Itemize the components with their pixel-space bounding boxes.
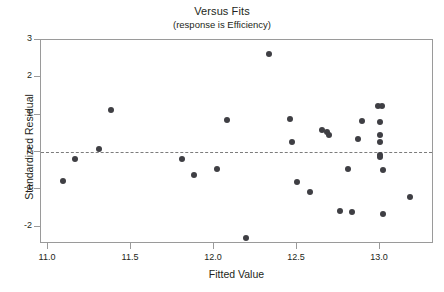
data-point	[377, 139, 383, 145]
y-tick-label: -2	[8, 221, 32, 230]
data-point	[243, 235, 249, 241]
data-point	[214, 166, 220, 172]
data-point	[359, 118, 365, 124]
data-point	[345, 166, 351, 172]
data-point	[355, 136, 361, 142]
x-axis-title: Fitted Value	[40, 268, 433, 280]
chart-subtitle: (response is Efficiency)	[0, 19, 444, 30]
plot-area	[40, 39, 433, 243]
data-point	[266, 51, 272, 57]
data-point	[377, 132, 383, 138]
data-point	[191, 172, 197, 178]
data-point	[337, 208, 343, 214]
data-point	[307, 189, 313, 195]
x-tick-mark	[47, 243, 48, 249]
data-point	[379, 103, 385, 109]
y-tick-label: 2	[8, 71, 32, 80]
x-tick-mark	[213, 243, 214, 249]
x-tick-label: 11.0	[27, 252, 67, 262]
data-point	[380, 167, 386, 173]
y-tick-label: 0	[8, 146, 32, 155]
data-point	[380, 211, 386, 217]
data-point	[377, 154, 383, 160]
data-point	[407, 194, 413, 200]
data-point	[294, 179, 300, 185]
data-point	[287, 116, 293, 122]
y-tick-label: 1	[8, 109, 32, 118]
x-tick-label: 11.5	[110, 252, 150, 262]
y-tick-label: -1	[8, 183, 32, 192]
data-point	[72, 156, 78, 162]
x-tick-label: 12.0	[193, 252, 233, 262]
data-point	[349, 209, 355, 215]
data-point	[108, 107, 114, 113]
data-point	[179, 156, 185, 162]
zero-reference-line	[41, 152, 432, 153]
versus-fits-chart: Versus Fits (response is Efficiency) Sta…	[0, 0, 444, 292]
data-point	[224, 117, 230, 123]
data-point	[326, 132, 332, 138]
x-tick-mark	[296, 243, 297, 249]
data-point	[377, 119, 383, 125]
chart-title: Versus Fits	[0, 5, 444, 17]
x-tick-label: 13.0	[359, 252, 399, 262]
data-point	[60, 178, 66, 184]
x-tick-mark	[130, 243, 131, 249]
data-point	[289, 139, 295, 145]
x-tick-mark	[379, 243, 380, 249]
x-tick-label: 12.5	[276, 252, 316, 262]
y-tick-label: 3	[8, 34, 32, 43]
